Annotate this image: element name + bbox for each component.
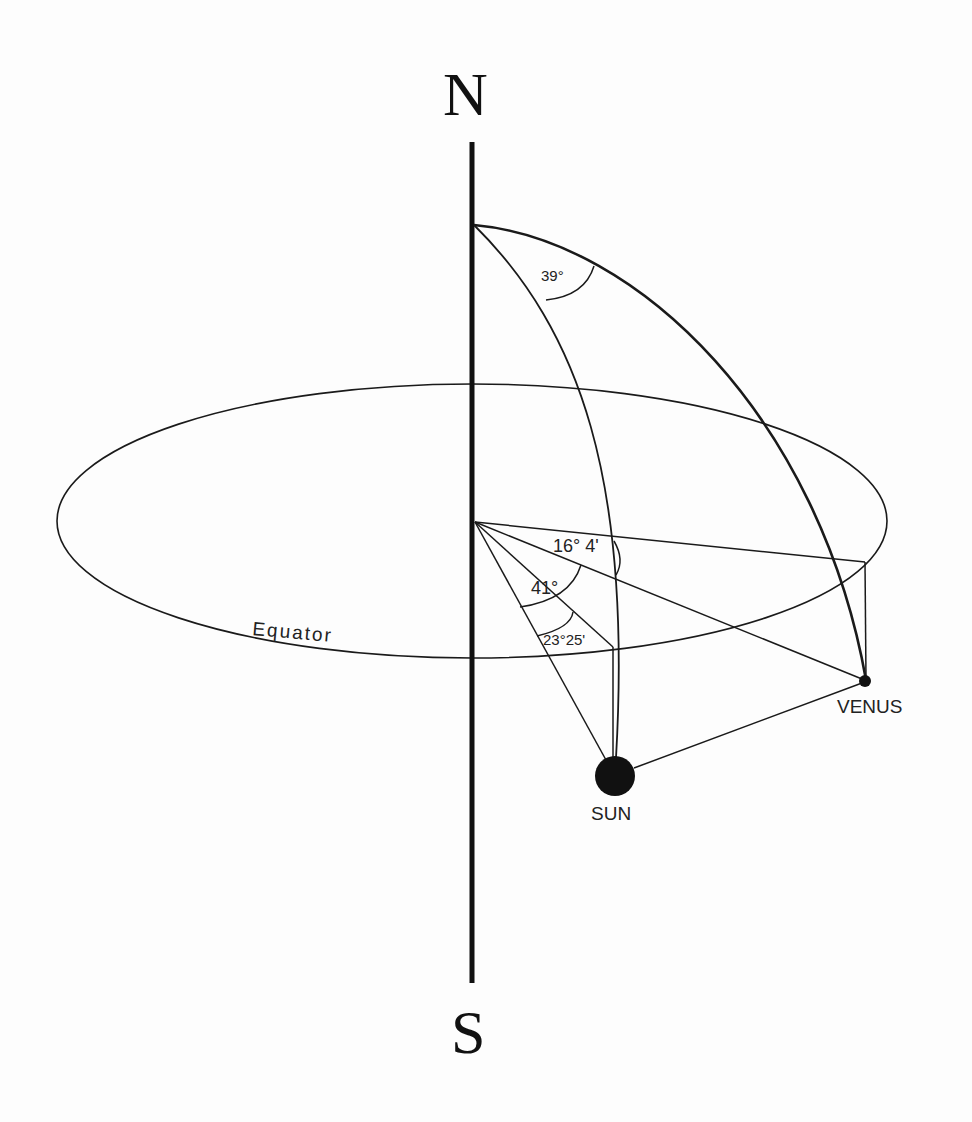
- line-center-to-venus-equator: [475, 522, 865, 562]
- venus-body: [859, 675, 871, 687]
- equator-label: Equator: [252, 618, 334, 646]
- sun-body: [595, 756, 635, 796]
- sun-label: SUN: [591, 803, 631, 824]
- celestial-sphere-diagram: N S Equator SUN VENUS 39° 16° 4' 41° 23°…: [0, 0, 972, 1122]
- sun-venus-line: [634, 683, 862, 768]
- line-center-to-sun: [475, 522, 606, 760]
- angle-label-39: 39°: [541, 267, 564, 284]
- venus-label: VENUS: [837, 696, 902, 717]
- venus-meridian: [474, 225, 866, 680]
- sun-meridian: [474, 225, 619, 758]
- south-pole-label: S: [451, 998, 485, 1066]
- angle-label-23-25: 23°25': [543, 631, 585, 648]
- angle-label-41: 41°: [531, 578, 558, 598]
- north-pole-label: N: [443, 60, 488, 128]
- line-center-to-venus: [475, 522, 862, 679]
- angle-label-16-4: 16° 4': [553, 536, 599, 556]
- venus-drop-line: [865, 562, 866, 680]
- diagram-svg: N S Equator SUN VENUS 39° 16° 4' 41° 23°…: [0, 0, 972, 1122]
